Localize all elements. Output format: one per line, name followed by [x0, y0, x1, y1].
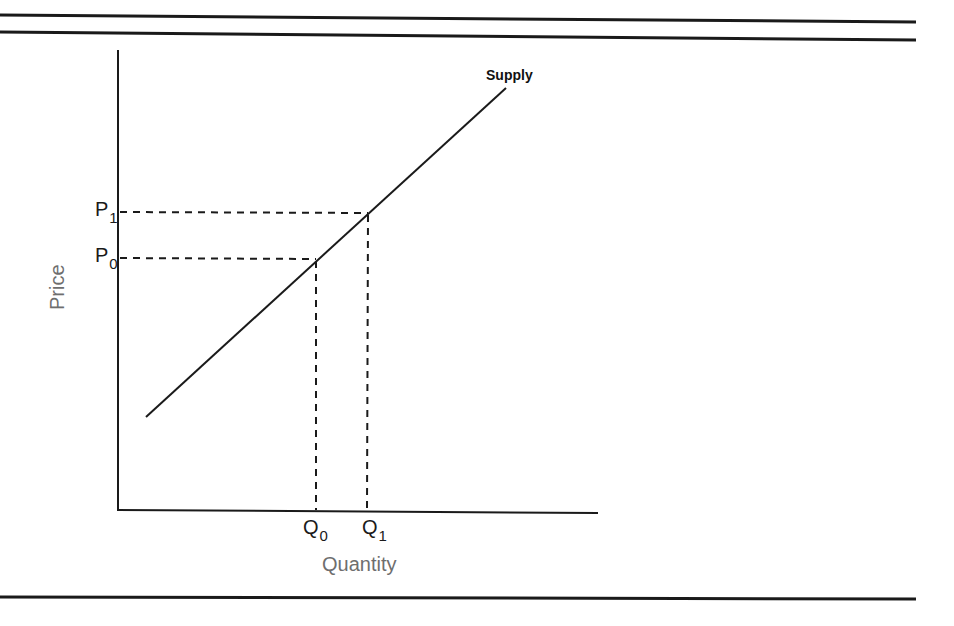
p1-main: P: [95, 198, 108, 220]
supply-chart: [0, 0, 954, 626]
bottom-rule: [0, 597, 916, 599]
q0-main: Q: [303, 516, 319, 538]
p0-sub: 0: [109, 255, 117, 272]
q1-label: Q1: [362, 517, 387, 537]
p1-sub: 1: [109, 209, 117, 226]
p0-label: P0: [95, 245, 118, 265]
supply-label: Supply: [486, 67, 533, 83]
q1-main: Q: [362, 516, 378, 538]
q1-sub: 1: [379, 527, 387, 544]
p1-guide: [120, 212, 368, 213]
p0-main: P: [95, 244, 108, 266]
y-axis-title: Price: [46, 264, 69, 310]
p0-guide: [120, 258, 316, 259]
q1-guide: [367, 215, 368, 510]
x-axis-title: Quantity: [322, 553, 396, 576]
top-rule-2: [0, 32, 916, 40]
q0-label: Q0: [303, 517, 328, 537]
top-rule-1: [0, 15, 916, 22]
x-axis: [117, 510, 598, 513]
q0-sub: 0: [320, 527, 328, 544]
supply-curve: [146, 88, 506, 417]
p1-label: P1: [95, 199, 118, 219]
